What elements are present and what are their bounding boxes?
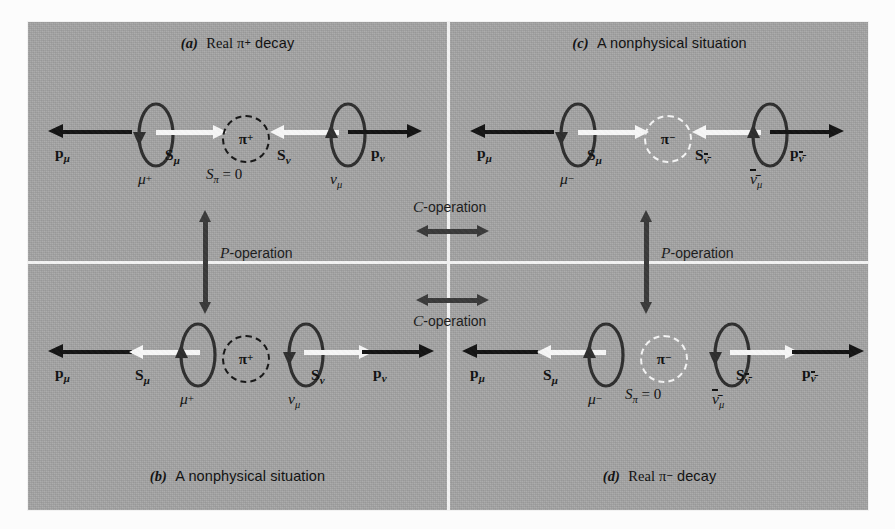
spin-label-mu: Sμ — [135, 366, 150, 386]
pion-circle: π+ — [222, 115, 270, 163]
panel-a-tag: (a) — [181, 35, 198, 51]
panel-b-particle-row: pμ Sμ μ+ — [28, 330, 447, 440]
momentum-arrow-nu — [348, 128, 408, 135]
momentum-label-nu: pν — [371, 144, 385, 164]
spin-loop-mu — [582, 322, 630, 388]
momentum-arrow-mu — [484, 128, 554, 135]
c-operation-label-bottom: C-operation — [413, 312, 486, 330]
momentum-arrow-mu — [62, 128, 132, 135]
momentum-label-mu: pμ — [55, 144, 70, 164]
panel-c-particle-row: pμ μ− Sμ π− — [450, 110, 869, 220]
particle-label-mu: μ+ — [180, 390, 194, 408]
p-operation-label-right: P-operation — [661, 244, 734, 262]
p-operation-arrow-right — [640, 210, 653, 314]
c-operation-label-top: C-operation — [413, 198, 486, 216]
c-operation-arrow-bottom — [416, 294, 489, 307]
spin-loop-nu — [324, 102, 372, 168]
spin-label-antinu: Sν̄ — [736, 366, 750, 386]
spin-label-antinu: Sν̄ — [695, 146, 709, 166]
particle-label-antinu: ν̄μ — [712, 390, 724, 410]
momentum-arrow-antinu — [792, 348, 850, 355]
pion-circle: π− — [644, 115, 692, 163]
panel-b-tag: (b) — [150, 468, 167, 484]
spin-label-mu: Sμ — [543, 366, 558, 386]
panel-a-title: Real π — [206, 35, 244, 51]
spin-arrow-antinu — [730, 348, 786, 356]
panel-b-caption: (b) A nonphysical situation — [28, 468, 447, 485]
particle-label-antinu: ν̄μ — [750, 170, 762, 190]
particle-label-nu: νμ — [330, 170, 342, 190]
spin-arrow-nu — [304, 348, 360, 356]
panel-a-title-tail: decay — [251, 35, 294, 51]
panel-c: (c) A nonphysical situation pμ μ− — [450, 22, 869, 261]
particle-label-nu: νμ — [288, 390, 300, 410]
panel-b-title: A nonphysical situation — [175, 468, 325, 484]
panel-d-particle-row: pμ Sμ μ− π− — [450, 330, 869, 440]
momentum-label-nu: pν — [373, 364, 387, 384]
pion-spin-note: Sπ = 0 — [625, 386, 661, 405]
momentum-arrow-nu — [362, 348, 420, 355]
panel-b: pμ Sμ μ+ — [28, 264, 447, 503]
momentum-arrow-antinu — [770, 128, 830, 135]
pion-circle: π− — [640, 335, 688, 383]
panel-a: (a) Real π+ decay pμ — [28, 22, 447, 261]
p-operation-label-left: P-operation — [220, 244, 293, 262]
momentum-label-mu: pμ — [55, 364, 70, 384]
panel-a-particle-row: pμ μ+ Sμ — [28, 110, 447, 220]
particle-label-mu: μ− — [560, 170, 574, 188]
momentum-arrow-mu — [62, 348, 132, 355]
panel-d-caption: (d) Real π− decay — [450, 468, 869, 485]
panel-a-caption: (a) Real π+ decay — [28, 35, 447, 52]
panel-c-caption: (c) A nonphysical situation — [450, 35, 869, 52]
spin-arrow-mu — [156, 128, 214, 136]
momentum-arrow-mu — [476, 348, 538, 355]
panel-c-title: A nonphysical situation — [597, 35, 747, 51]
spin-loop-mu — [174, 322, 222, 388]
panel-d-title-tail: decay — [673, 468, 716, 484]
momentum-label-antinu: pν̄ — [790, 144, 804, 164]
spin-label-mu: Sμ — [587, 146, 602, 166]
particle-label-mu: μ+ — [138, 170, 152, 188]
spin-label-nu: Sν — [277, 146, 291, 166]
spin-label-nu: Sν — [311, 366, 325, 386]
momentum-label-antinu: pν̄ — [802, 364, 816, 384]
pion-spin-note: Sπ = 0 — [206, 166, 242, 185]
particle-label-mu: μ− — [588, 390, 602, 408]
p-operation-arrow-left — [199, 210, 212, 314]
panel-d-title: Real π — [628, 468, 666, 484]
panel-c-tag: (c) — [572, 35, 588, 51]
momentum-label-mu: pμ — [477, 144, 492, 164]
panel-d: pμ Sμ μ− π− — [450, 264, 869, 503]
spin-arrow-mu — [578, 128, 636, 136]
spin-label-mu: Sμ — [165, 146, 180, 166]
spin-loop-antinu — [746, 102, 794, 168]
figure-root: (a) Real π+ decay pμ — [0, 0, 895, 529]
momentum-label-mu: pμ — [470, 364, 485, 384]
pion-circle: π+ — [222, 335, 270, 383]
c-operation-arrow-top — [416, 225, 489, 238]
diagram-panel: (a) Real π+ decay pμ — [28, 22, 868, 510]
panel-d-tag: (d) — [603, 468, 620, 484]
